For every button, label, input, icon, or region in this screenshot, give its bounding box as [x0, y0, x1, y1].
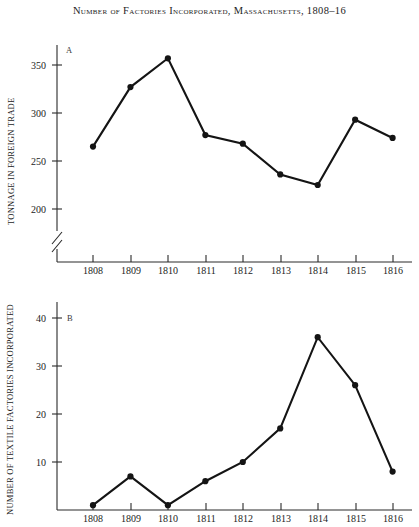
- data-point: [165, 55, 171, 61]
- panel-b-y-ticklabel-40: 40: [36, 313, 46, 324]
- data-point: [352, 382, 358, 388]
- panel-a: TONNAGE IN FOREIGN TRADE A 350 300 250 2…: [6, 45, 412, 276]
- data-point: [127, 473, 133, 479]
- data-point: [315, 182, 321, 188]
- panel-b-x-ticklabel-1: 1809: [121, 513, 141, 524]
- panel-b-y-ticklabel-20: 20: [36, 409, 46, 420]
- panel-b-x-ticklabel-4: 1812: [233, 513, 253, 524]
- panel-a-y-ticklabel-300: 300: [31, 108, 46, 119]
- data-point: [90, 144, 96, 150]
- panel-b-x-ticklabel-2: 1810: [158, 513, 178, 524]
- data-point: [202, 132, 208, 138]
- panel-a-x-ticklabel-6: 1814: [308, 265, 328, 276]
- data-point: [240, 459, 246, 465]
- panel-b-y-ticks: 40 30 20 10: [36, 313, 62, 468]
- figure-container: Number of Factories Incorporated, Massac…: [0, 0, 419, 527]
- panel-a-x-ticklabel-5: 1813: [271, 265, 291, 276]
- figure-plot-area: TONNAGE IN FOREIGN TRADE A 350 300 250 2…: [0, 0, 419, 527]
- data-point: [277, 425, 283, 431]
- data-point: [390, 135, 396, 141]
- data-point: [240, 141, 246, 147]
- panel-a-y-ticklabel-350: 350: [31, 60, 46, 71]
- panel-a-x-ticklabel-4: 1812: [233, 265, 253, 276]
- data-point: [127, 84, 133, 90]
- panel-b-x-ticklabel-8: 1816: [383, 513, 403, 524]
- panel-a-x-ticklabel-3: 1811: [196, 265, 216, 276]
- panel-b-x-ticklabel-0: 1808: [83, 513, 103, 524]
- panel-a-series-markers: [90, 55, 396, 188]
- panel-b-y-ticklabel-10: 10: [36, 457, 46, 468]
- panel-b-x-ticklabel-3: 1811: [196, 513, 216, 524]
- panel-a-x-ticklabel-1: 1809: [121, 265, 141, 276]
- data-point: [390, 469, 396, 475]
- panel-a-x-ticklabel-7: 1815: [346, 265, 366, 276]
- panel-a-y-axis-title: TONNAGE IN FOREIGN TRADE: [6, 98, 16, 225]
- data-point: [352, 117, 358, 123]
- data-point: [90, 502, 96, 508]
- panel-a-label: A: [66, 45, 73, 55]
- panel-b-series-markers: [90, 334, 396, 508]
- data-point: [202, 478, 208, 484]
- panel-b-series-line: [93, 337, 393, 505]
- panel-a-x-ticklabel-0: 1808: [83, 265, 103, 276]
- data-point: [315, 334, 321, 340]
- panel-b-x-ticklabel-6: 1814: [308, 513, 328, 524]
- panel-a-x-ticklabel-2: 1810: [158, 265, 178, 276]
- panel-a-series-line: [93, 58, 393, 185]
- panel-a-x-ticklabel-8: 1816: [383, 265, 403, 276]
- panel-b-x-ticks: 1808 1809 1810 1811 1812 1813 1814 1815 …: [83, 503, 403, 524]
- panel-b-x-ticklabel-5: 1813: [271, 513, 291, 524]
- panel-b-label: B: [67, 313, 73, 323]
- panel-b-y-ticklabel-30: 30: [36, 361, 46, 372]
- panel-b-x-ticklabel-7: 1815: [346, 513, 366, 524]
- panel-a-x-ticks: 1808 1809 1810 1811 1812 1813 1814 1815 …: [83, 255, 403, 276]
- panel-a-y-ticklabel-200: 200: [31, 204, 46, 215]
- panel-a-y-ticklabel-250: 250: [31, 156, 46, 167]
- panel-b-y-axis-title: NUMBER OF TEXTILE FACTORIES INCORPORATED: [5, 304, 15, 515]
- panel-b: NUMBER OF TEXTILE FACTORIES INCORPORATED…: [5, 302, 412, 524]
- data-point: [165, 502, 171, 508]
- data-point: [277, 171, 283, 177]
